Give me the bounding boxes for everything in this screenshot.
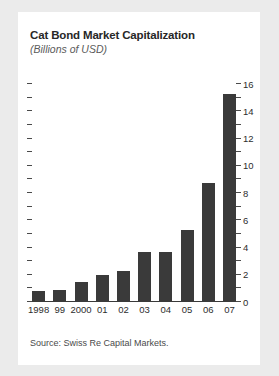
- plot-area: 0246810121416: [28, 84, 240, 302]
- bar-series: [28, 84, 240, 302]
- x-axis-label-04: 04: [155, 305, 176, 315]
- bar-slot: [28, 84, 49, 302]
- y-tick-label-4: 4: [243, 243, 265, 253]
- bar-01: [96, 275, 109, 302]
- bar-slot: [92, 84, 113, 302]
- x-axis-label-2000: 2000: [70, 305, 91, 315]
- y-tick-label-0: 0: [243, 297, 265, 307]
- x-axis-label-06: 06: [198, 305, 219, 315]
- bar-slot: [113, 84, 134, 302]
- bar-slot: [134, 84, 155, 302]
- y-tick-label-8: 8: [243, 188, 265, 198]
- y-tick-label-2: 2: [243, 270, 265, 280]
- y-tick-label-12: 12: [243, 134, 265, 144]
- bar-slot: [198, 84, 219, 302]
- chart-title: Cat Bond Market Capitalization: [30, 29, 248, 42]
- bar-slot: [219, 84, 240, 302]
- bar-2000: [75, 282, 88, 302]
- bar-02: [117, 271, 130, 302]
- y-tick-label-14: 14: [243, 107, 265, 117]
- bar-slot: [49, 84, 70, 302]
- y-tick-label-6: 6: [243, 216, 265, 226]
- chart-card: Cat Bond Market Capitalization (Billions…: [18, 12, 260, 365]
- x-axis-label-07: 07: [219, 305, 240, 315]
- bar-07: [223, 94, 236, 302]
- x-axis-label-05: 05: [176, 305, 197, 315]
- source-note: Source: Swiss Re Capital Markets.: [30, 338, 169, 348]
- y-tick-label-10: 10: [243, 161, 265, 171]
- bar-1998: [32, 291, 45, 302]
- x-axis-label-01: 01: [92, 305, 113, 315]
- bar-06: [202, 183, 215, 302]
- x-axis-label-03: 03: [134, 305, 155, 315]
- y-tick-label-16: 16: [243, 79, 265, 89]
- bar-slot: [155, 84, 176, 302]
- bar-99: [53, 290, 66, 302]
- chart-subtitle: (Billions of USD): [30, 43, 248, 56]
- x-axis-label-1998: 1998: [28, 305, 49, 315]
- x-axis-label-99: 99: [49, 305, 70, 315]
- bar-05: [181, 230, 194, 302]
- bar-slot: [70, 84, 91, 302]
- x-axis-label-02: 02: [113, 305, 134, 315]
- bar-03: [138, 252, 151, 302]
- bar-slot: [176, 84, 197, 302]
- bar-04: [159, 252, 172, 302]
- x-axis-labels: 199899200001020304050607: [28, 305, 240, 315]
- chart-header: Cat Bond Market Capitalization (Billions…: [30, 29, 248, 56]
